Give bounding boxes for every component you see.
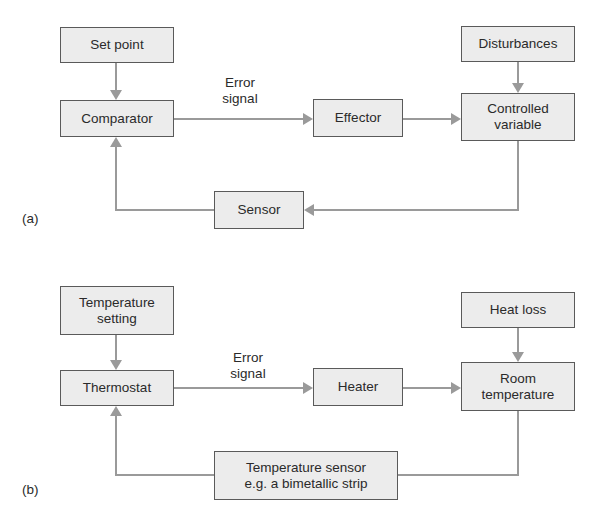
arrow-heater-to-room-temperature bbox=[403, 382, 461, 394]
room-temperature-label: Room temperature bbox=[482, 371, 555, 403]
arrow-heat-loss-to-room-temperature bbox=[512, 328, 524, 362]
arrow-sensor-to-thermostat bbox=[110, 406, 214, 475]
heat-loss-label: Heat loss bbox=[490, 302, 546, 318]
effector-box: Effector bbox=[313, 99, 403, 137]
arrow-comparator-to-effector bbox=[174, 113, 313, 125]
temperature-sensor-label: Temperature sensor e.g. a bimetallic str… bbox=[244, 460, 367, 492]
thermostat-box: Thermostat bbox=[60, 370, 174, 406]
arrow-sensor-to-comparator bbox=[110, 137, 214, 210]
arrow-temperature-setting-to-thermostat bbox=[110, 335, 122, 370]
arrow-controlled-variable-to-sensor bbox=[304, 141, 518, 216]
effector-label: Effector bbox=[335, 110, 381, 126]
panel-label-b: (b) bbox=[22, 482, 39, 498]
arrow-thermostat-to-heater bbox=[174, 382, 313, 394]
controlled-variable-label: Controlled variable bbox=[487, 101, 549, 133]
thermostat-label: Thermostat bbox=[83, 380, 151, 396]
panel-label-a: (a) bbox=[22, 211, 39, 227]
heat-loss-box: Heat loss bbox=[461, 292, 575, 328]
temperature-sensor-box: Temperature sensor e.g. a bimetallic str… bbox=[214, 451, 398, 500]
temperature-setting-box: Temperature setting bbox=[60, 286, 174, 335]
arrow-disturbances-to-controlled-variable bbox=[512, 62, 524, 93]
comparator-label: Comparator bbox=[81, 111, 152, 127]
set-point-box: Set point bbox=[60, 27, 174, 63]
sensor-label: Sensor bbox=[238, 202, 281, 218]
set-point-label: Set point bbox=[90, 37, 143, 53]
line-room-temperature-to-sensor bbox=[398, 411, 518, 475]
arrow-setpoint-to-comparator bbox=[110, 63, 122, 100]
heater-box: Heater bbox=[313, 368, 403, 406]
error-signal-label-a: Error signal bbox=[210, 75, 270, 107]
connector-layer bbox=[0, 0, 607, 518]
sensor-box: Sensor bbox=[214, 191, 304, 229]
heater-label: Heater bbox=[338, 379, 379, 395]
room-temperature-box: Room temperature bbox=[461, 362, 575, 411]
temperature-setting-label: Temperature setting bbox=[79, 295, 155, 327]
comparator-box: Comparator bbox=[60, 100, 174, 137]
arrow-effector-to-controlled-variable bbox=[403, 113, 461, 125]
disturbances-label: Disturbances bbox=[479, 36, 558, 52]
error-signal-label-b: Error signal bbox=[218, 350, 278, 382]
controlled-variable-box: Controlled variable bbox=[461, 93, 575, 141]
disturbances-box: Disturbances bbox=[461, 26, 575, 62]
